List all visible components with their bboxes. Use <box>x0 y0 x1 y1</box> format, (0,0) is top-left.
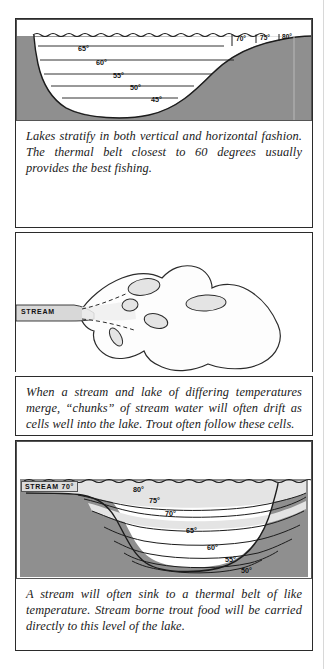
stream-label-panel-3: STREAM 70° <box>21 481 78 492</box>
temp-label-50-3: 50° <box>241 566 252 575</box>
temp-label-65: 65° <box>78 44 89 53</box>
panel-stream-cells: STREAM <box>15 232 313 372</box>
temp-label-45: 45° <box>151 95 162 104</box>
surface-belt-label-70: 70° <box>236 35 246 42</box>
lake-plan-view-svg <box>16 233 312 372</box>
surface-belt-label-75: 75° <box>260 34 270 41</box>
caption-panel-3: A stream will often sink to a thermal be… <box>16 579 312 640</box>
temp-label-55-3: 55° <box>225 555 236 564</box>
stream-thermal-belt-svg <box>16 441 312 579</box>
temp-label-80-3: 80° <box>133 485 144 494</box>
temp-label-65-3: 65° <box>186 526 197 535</box>
caption-panel-2: When a stream and lake of differing temp… <box>16 377 312 438</box>
temp-label-70-3: 70° <box>165 509 176 518</box>
temp-label-55: 55° <box>113 71 124 80</box>
panel-stream-sinking: STREAM 70° 80° 75° 70° 65° 60° 55° 50° A… <box>15 440 313 651</box>
stream-label-panel-2: STREAM <box>18 307 58 316</box>
caption-panel-1: Lakes stratify in both vertical and hori… <box>16 121 312 182</box>
surface-belt-label-80: 80° <box>282 33 292 40</box>
figure-lake-cross-section: 65° 60° 55° 50° 45° 70° 75° 80° <box>16 19 312 121</box>
temp-label-75-3: 75° <box>149 496 160 505</box>
figure-stream-thermal-belt: STREAM 70° 80° 75° 70° 65° 60° 55° 50° <box>16 441 312 579</box>
figure-lake-plan-view: STREAM <box>16 233 312 372</box>
panel-caption-2-box: When a stream and lake of differing temp… <box>15 376 313 436</box>
sky-area-3 <box>16 441 312 479</box>
page-edge-rule <box>323 0 324 669</box>
temp-label-50: 50° <box>130 83 141 92</box>
document-page: 65° 60° 55° 50° 45° 70° 75° 80° Lakes st… <box>0 0 330 669</box>
temp-label-60-3: 60° <box>207 543 218 552</box>
panel-lake-stratification: 65° 60° 55° 50° 45° 70° 75° 80° Lakes st… <box>15 18 313 228</box>
temp-label-60: 60° <box>96 58 107 67</box>
